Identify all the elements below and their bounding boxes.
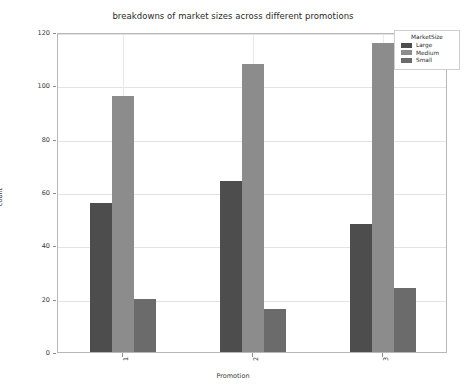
y-axis-label: count [0, 188, 4, 206]
legend-item[interactable]: Small [401, 57, 455, 63]
y-tick-mark [53, 353, 56, 354]
y-tick-label: 0 [24, 349, 50, 357]
legend-swatch-icon [401, 50, 412, 55]
bar [134, 299, 156, 352]
y-tick-label: 80 [24, 136, 50, 144]
bar [220, 181, 242, 352]
y-tick-mark [53, 300, 56, 301]
bar [242, 64, 264, 352]
gridline [58, 34, 446, 35]
chart-title: breakdowns of market sizes across differ… [0, 11, 466, 21]
bar [264, 309, 286, 352]
y-tick-label: 40 [24, 242, 50, 250]
legend-item[interactable]: Large [401, 42, 455, 48]
y-tick-mark [53, 193, 56, 194]
legend-swatch-icon [401, 43, 412, 48]
bar [350, 224, 372, 352]
legend-label: Medium [416, 50, 439, 56]
x-axis-label: Promotion [0, 372, 466, 380]
bar [394, 288, 416, 352]
x-tick-label: 1 [122, 354, 130, 364]
y-tick-label: 20 [24, 296, 50, 304]
legend-label: Large [416, 42, 432, 48]
y-tick-label: 60 [24, 189, 50, 197]
bar [90, 203, 112, 352]
y-tick-mark [53, 140, 56, 141]
chart-figure: breakdowns of market sizes across differ… [0, 0, 466, 391]
legend-title: MarketSize [399, 34, 455, 40]
plot-area [57, 33, 447, 353]
legend-entries: LargeMediumSmall [399, 42, 455, 63]
legend-swatch-icon [401, 58, 412, 63]
x-tick-label: 2 [252, 354, 260, 364]
y-tick-mark [53, 86, 56, 87]
bar [112, 96, 134, 352]
bar [372, 43, 394, 352]
y-tick-label: 100 [24, 82, 50, 90]
y-tick-label: 120 [24, 29, 50, 37]
legend-label: Small [416, 57, 432, 63]
x-tick-label: 3 [382, 354, 390, 364]
legend-item[interactable]: Medium [401, 50, 455, 56]
y-tick-mark [53, 33, 56, 34]
y-tick-mark [53, 246, 56, 247]
legend: MarketSize LargeMediumSmall [394, 30, 460, 70]
